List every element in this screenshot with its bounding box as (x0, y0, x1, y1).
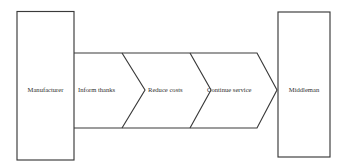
flow-step-label-3: Continue service (207, 86, 252, 93)
flow-diagram-canvas: Manufacturer Middleman Inform thanks Red… (0, 0, 346, 168)
process-flow-diagram: Manufacturer Middleman Inform thanks Red… (0, 0, 346, 168)
node-middleman-label: Middleman (289, 86, 320, 93)
flow-step-label-2: Reduce costs (148, 86, 183, 93)
node-middleman-box[interactable] (278, 12, 330, 157)
node-manufacturer-label: Manufacturer (28, 86, 65, 93)
flow-step-label-1: Inform thanks (78, 86, 116, 93)
